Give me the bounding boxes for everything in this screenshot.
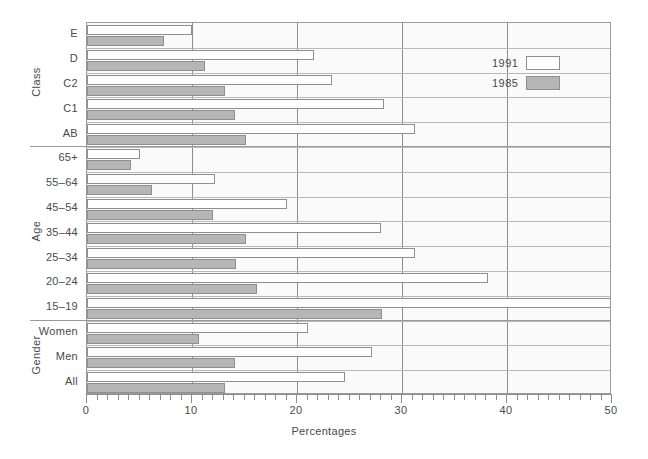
x-tick-label-50: 50 xyxy=(596,404,626,416)
x-axis-title: Percentages xyxy=(0,425,648,437)
x-tick-13 xyxy=(223,395,224,400)
bar-band xyxy=(87,147,610,172)
x-tick-7 xyxy=(160,395,161,400)
x-tick-27 xyxy=(370,395,371,400)
bar-1985 xyxy=(87,309,382,319)
x-tick-41 xyxy=(517,395,518,400)
x-tick-15 xyxy=(244,395,245,400)
bar-1991 xyxy=(87,50,314,60)
x-tick-46 xyxy=(569,395,570,400)
x-tick-35 xyxy=(454,395,455,400)
legend-swatch-1985 xyxy=(526,76,560,90)
category-label-2024: 20–24 xyxy=(0,275,78,287)
x-tick-43 xyxy=(538,395,539,400)
legend-item-1985: 1985 xyxy=(492,75,568,91)
category-label-5564: 55–64 xyxy=(0,176,78,188)
x-tick-5 xyxy=(139,395,140,400)
bar-1991 xyxy=(87,223,381,233)
x-tick-40 xyxy=(506,395,507,403)
bar-1985 xyxy=(87,234,246,244)
bar-1985 xyxy=(87,383,225,393)
chart-root: EDC2C1AB65+55–6445–5435–4425–3420–2415–1… xyxy=(0,0,648,459)
x-tick-4 xyxy=(128,395,129,400)
x-tick-44 xyxy=(548,395,549,400)
x-tick-20 xyxy=(296,395,297,403)
group-divider xyxy=(30,320,611,321)
group-label-class: Class xyxy=(30,52,42,112)
x-tick-0 xyxy=(86,395,87,403)
x-tick-34 xyxy=(443,395,444,400)
bar-1991 xyxy=(87,124,415,134)
x-tick-label-10: 10 xyxy=(176,404,206,416)
x-tick-9 xyxy=(181,395,182,400)
bar-band xyxy=(87,246,610,271)
bar-1991 xyxy=(87,298,611,308)
bar-band xyxy=(87,97,610,122)
bar-1991 xyxy=(87,199,287,209)
group-label-age: Age xyxy=(30,201,42,261)
x-tick-label-30: 30 xyxy=(386,404,416,416)
x-tick-50 xyxy=(611,395,612,403)
legend-label-1991: 1991 xyxy=(492,57,526,69)
bar-1991 xyxy=(87,25,192,35)
bar-1991 xyxy=(87,372,345,382)
bar-1991 xyxy=(87,75,332,85)
x-tick-2 xyxy=(107,395,108,400)
x-tick-48 xyxy=(590,395,591,400)
x-tick-37 xyxy=(475,395,476,400)
legend-label-1985: 1985 xyxy=(492,77,526,89)
bar-band xyxy=(87,370,610,394)
bar-band xyxy=(87,321,610,346)
x-tick-16 xyxy=(254,395,255,400)
x-tick-14 xyxy=(233,395,234,400)
bar-1991 xyxy=(87,99,384,109)
bar-1985 xyxy=(87,61,205,71)
x-tick-label-20: 20 xyxy=(281,404,311,416)
x-tick-47 xyxy=(580,395,581,400)
bar-band xyxy=(87,345,610,370)
bar-1985 xyxy=(87,160,131,170)
legend: 1991 1985 xyxy=(492,55,568,95)
x-tick-29 xyxy=(391,395,392,400)
bar-1985 xyxy=(87,135,246,145)
x-tick-19 xyxy=(286,395,287,400)
x-tick-17 xyxy=(265,395,266,400)
x-tick-26 xyxy=(359,395,360,400)
bar-band xyxy=(87,296,610,321)
bar-1985 xyxy=(87,110,235,120)
x-tick-49 xyxy=(601,395,602,400)
bar-1985 xyxy=(87,36,164,46)
x-tick-8 xyxy=(170,395,171,400)
x-tick-32 xyxy=(422,395,423,400)
group-divider xyxy=(30,146,611,147)
x-tick-38 xyxy=(485,395,486,400)
category-label-1519: 15–19 xyxy=(0,300,78,312)
x-tick-1 xyxy=(97,395,98,400)
bar-band xyxy=(87,221,610,246)
x-tick-12 xyxy=(212,395,213,400)
legend-item-1991: 1991 xyxy=(492,55,568,71)
x-tick-45 xyxy=(559,395,560,400)
bar-band xyxy=(87,23,610,48)
x-tick-10 xyxy=(191,395,192,403)
bar-1985 xyxy=(87,185,152,195)
category-label-65: 65+ xyxy=(0,151,78,163)
x-tick-24 xyxy=(338,395,339,400)
bar-1985 xyxy=(87,358,235,368)
x-tick-28 xyxy=(380,395,381,400)
bar-1991 xyxy=(87,347,372,357)
bar-1985 xyxy=(87,284,257,294)
bar-1991 xyxy=(87,273,488,283)
bar-1991 xyxy=(87,149,140,159)
x-tick-11 xyxy=(202,395,203,400)
bar-band xyxy=(87,271,610,296)
x-tick-6 xyxy=(149,395,150,400)
bar-band xyxy=(87,122,610,147)
x-tick-42 xyxy=(527,395,528,400)
bar-1991 xyxy=(87,248,415,258)
legend-swatch-1991 xyxy=(526,56,560,70)
x-tick-22 xyxy=(317,395,318,400)
bar-1991 xyxy=(87,174,215,184)
bar-1991 xyxy=(87,323,308,333)
bar-1985 xyxy=(87,334,199,344)
